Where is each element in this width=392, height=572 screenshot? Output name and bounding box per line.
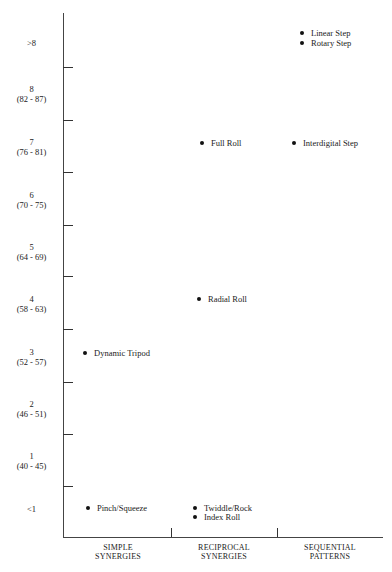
x-tick — [277, 528, 278, 537]
y-tick — [63, 225, 73, 226]
dot-marker-icon — [83, 351, 87, 355]
y-level: 2 — [0, 399, 63, 409]
y-tick — [63, 382, 73, 383]
y-label-lt1: <1 — [0, 504, 63, 514]
y-label-3: 3 (52 - 57) — [0, 347, 63, 367]
y-level: 1 — [0, 451, 63, 461]
y-range: (64 - 69) — [0, 252, 63, 262]
dot-marker-icon — [300, 41, 304, 45]
y-level: 8 — [0, 84, 63, 94]
x-label-line: SIMPLE — [65, 543, 171, 552]
dot-marker-icon — [300, 31, 304, 35]
x-label-simple-synergies: SIMPLE SYNERGIES — [65, 543, 171, 561]
point-linear-step: Linear Step — [300, 28, 350, 38]
x-label-line: SYNERGIES — [65, 552, 171, 561]
y-range: (70 - 75) — [0, 200, 63, 210]
y-label-gt8: >8 — [0, 38, 63, 48]
y-level: <1 — [0, 504, 63, 514]
y-tick — [63, 120, 73, 121]
y-range: (52 - 57) — [0, 357, 63, 367]
y-label-2: 2 (46 - 51) — [0, 399, 63, 419]
dot-marker-icon — [292, 141, 296, 145]
point-index-roll: Index Roll — [193, 512, 240, 522]
y-level: 7 — [0, 137, 63, 147]
y-label-5: 5 (64 - 69) — [0, 242, 63, 262]
point-label: Rotary Step — [311, 38, 351, 48]
scatter-chart: >8 8 (82 - 87) 7 (76 - 81) 6 (70 - 75) 5… — [0, 0, 392, 572]
point-dynamic-tripod: Dynamic Tripod — [83, 348, 150, 358]
y-label-4: 4 (58 - 63) — [0, 294, 63, 314]
y-tick — [63, 329, 73, 330]
point-pinch-squeeze: Pinch/Squeeze — [86, 503, 147, 513]
y-tick — [63, 486, 73, 487]
y-range: (40 - 45) — [0, 461, 63, 471]
y-label-8: 8 (82 - 87) — [0, 84, 63, 104]
y-level: 6 — [0, 190, 63, 200]
point-label: Linear Step — [311, 28, 350, 38]
point-full-roll: Full Roll — [200, 138, 241, 148]
point-label: Pinch/Squeeze — [97, 503, 147, 513]
y-level: 4 — [0, 294, 63, 304]
x-label-line: RECIPROCAL — [171, 543, 277, 552]
x-label-line: PATTERNS — [277, 552, 383, 561]
x-label-reciprocal-synergies: RECIPROCAL SYNERGIES — [171, 543, 277, 561]
point-label: Index Roll — [204, 512, 240, 522]
y-tick — [63, 67, 73, 68]
point-label: Radial Roll — [208, 294, 247, 304]
x-label-line: SYNERGIES — [171, 552, 277, 561]
y-range: (58 - 63) — [0, 304, 63, 314]
y-label-1: 1 (40 - 45) — [0, 451, 63, 471]
x-label-line: SEQUENTIAL — [277, 543, 383, 552]
y-level: 3 — [0, 347, 63, 357]
point-interdigital-step: Interdigital Step — [292, 138, 358, 148]
y-range: (76 - 81) — [0, 147, 63, 157]
dot-marker-icon — [197, 297, 201, 301]
y-label-7: 7 (76 - 81) — [0, 137, 63, 157]
dot-marker-icon — [200, 141, 204, 145]
y-tick — [63, 172, 73, 173]
y-level: >8 — [0, 38, 63, 48]
y-tick — [63, 434, 73, 435]
point-label: Interdigital Step — [303, 138, 358, 148]
y-range: (46 - 51) — [0, 409, 63, 419]
y-tick — [63, 276, 73, 277]
point-radial-roll: Radial Roll — [197, 294, 247, 304]
y-range: (82 - 87) — [0, 94, 63, 104]
point-label: Full Roll — [211, 138, 241, 148]
x-label-sequential-patterns: SEQUENTIAL PATTERNS — [277, 543, 383, 561]
y-label-6: 6 (70 - 75) — [0, 190, 63, 210]
dot-marker-icon — [193, 506, 197, 510]
x-tick — [171, 528, 172, 537]
point-label: Dynamic Tripod — [94, 348, 150, 358]
x-axis-line — [63, 537, 383, 538]
point-rotary-step: Rotary Step — [300, 38, 351, 48]
y-level: 5 — [0, 242, 63, 252]
dot-marker-icon — [86, 506, 90, 510]
dot-marker-icon — [193, 515, 197, 519]
